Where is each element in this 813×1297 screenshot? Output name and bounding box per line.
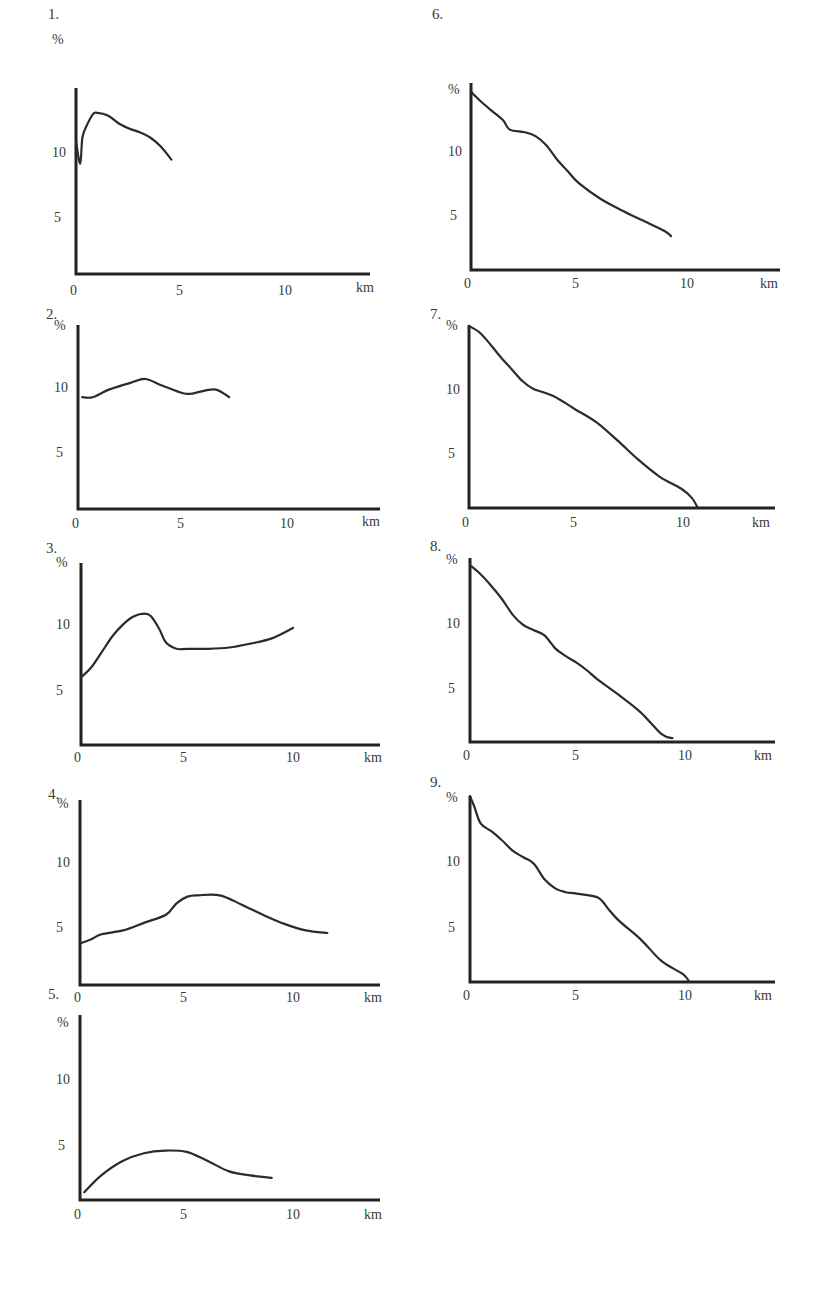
x-tick-0: 0 xyxy=(463,988,470,1004)
y-tick-10: 10 xyxy=(446,854,460,870)
x-axis-unit: km xyxy=(754,988,772,1004)
y-axis-unit: % xyxy=(446,790,458,806)
chart-plot-area xyxy=(0,0,813,1297)
data-curve xyxy=(470,796,689,982)
y-tick-5: 5 xyxy=(448,920,455,936)
axes-lines xyxy=(470,796,775,982)
panel-number: 9. xyxy=(430,774,441,791)
x-tick-5: 5 xyxy=(572,988,579,1004)
x-tick-10: 10 xyxy=(678,988,692,1004)
